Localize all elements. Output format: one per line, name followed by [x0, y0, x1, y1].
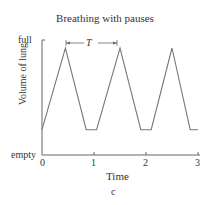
x-tick-label-1: 1: [91, 157, 96, 168]
x-axis-label: Time: [106, 170, 129, 182]
arrowhead-left-icon: [66, 42, 70, 45]
x-tick-label-3: 3: [195, 157, 200, 168]
arrowhead-right-icon: [113, 42, 117, 45]
y-tick-label-empty: empty: [11, 149, 36, 160]
chart-plot: [0, 0, 210, 205]
period-label: T: [86, 37, 92, 48]
x-tick-label-2: 2: [143, 157, 148, 168]
figure-caption: c: [111, 186, 115, 197]
y-axis-label: Volume of lung: [17, 43, 28, 105]
x-tick-label-0: 0: [40, 157, 45, 168]
lung-volume-line: [42, 48, 198, 130]
